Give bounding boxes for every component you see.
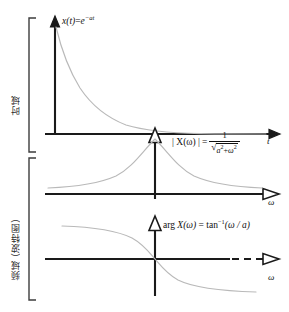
time-equation-lhs: x(t) — [62, 16, 75, 26]
magnitude-equation-equals: = — [202, 138, 207, 148]
magnitude-equation-fraction: 1 √a2+ω2 — [209, 131, 239, 154]
figure-container: x(t)=e−at t | X(ω) | = 1 √a2+ω2 ω arg X(… — [0, 0, 289, 312]
phase-equation-argument: (ω / a) — [225, 220, 250, 230]
time-equation-exponent: −at — [85, 14, 95, 21]
time-domain-plot — [45, 16, 280, 139]
group-label-frequency-domain: 频域 (波特图) — [8, 185, 21, 280]
magnitude-equation-lhs: | X(ω) | — [172, 138, 200, 148]
time-domain-equation: x(t)=e−at — [62, 15, 94, 27]
magnitude-fraction-denominator: √a2+ω2 — [209, 142, 239, 155]
bracket-frequency-domain — [29, 158, 36, 300]
phase-x-axis-arrow — [263, 254, 279, 265]
figure-canvas — [0, 0, 289, 312]
phase-equation-lhs: X(ω) — [177, 220, 196, 230]
bracket-time-domain — [29, 18, 36, 152]
phase-x-axis-label: ω — [268, 273, 274, 282]
phase-equation: arg X(ω) = tan−1(ω / a) — [163, 219, 250, 231]
time-x-axis-label: t — [267, 137, 270, 146]
time-x-axis-arrow — [269, 130, 280, 139]
phase-y-axis-arrow — [149, 216, 161, 231]
time-domain-curve — [56, 27, 266, 134]
time-y-axis-arrow — [51, 16, 60, 27]
group-label-time-domain: 时域 — [8, 55, 21, 115]
magnitude-fraction-numerator: 1 — [219, 131, 229, 141]
radicand: a2+ω2 — [216, 143, 238, 155]
radicand-omega-exponent: 2 — [234, 144, 237, 150]
square-root-group: √a2+ω2 — [211, 143, 237, 155]
phase-equation-equals: = — [199, 220, 204, 230]
phase-equation-prefix: arg — [163, 220, 175, 230]
magnitude-plot — [45, 128, 279, 200]
phase-function-exponent: −1 — [218, 218, 225, 225]
magnitude-equation: | X(ω) | = 1 √a2+ω2 — [172, 131, 240, 154]
magnitude-x-axis-label: ω — [268, 198, 274, 207]
phase-equation-function: tan — [206, 220, 218, 230]
